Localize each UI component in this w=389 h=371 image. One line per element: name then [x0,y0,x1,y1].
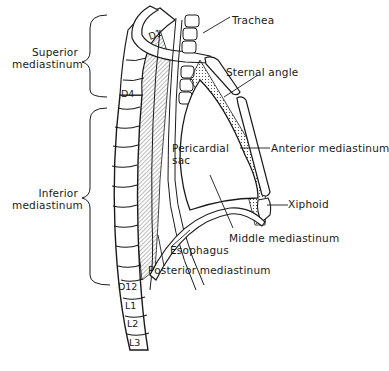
label-superior-mediastinum: Superior mediastinum [12,46,78,70]
label-sternal-angle: Sternal angle [226,66,298,78]
label-posterior-mediastinum: Posterior mediastinum [148,264,271,276]
label-inferior-mediastinum: Inferior mediastinum [12,187,78,211]
label-pericardial-sac: Pericardial sac [172,142,229,166]
label-line: Pericardial [172,142,229,154]
superior-bracket [82,15,107,97]
label-trachea: Trachea [232,14,274,26]
label-line: Inferior [12,187,78,199]
vertebra-label-l1: L1 [125,300,136,311]
vertebra-label-d12: D12 [118,281,137,292]
label-line: mediastinum [12,58,78,70]
label-line: sac [172,154,229,166]
vertebra-label-d4: D4 [121,88,134,99]
label-middle-mediastinum: Middle mediastinum [229,232,339,244]
label-anterior-mediastinum: Anterior mediastinum [271,142,389,154]
label-line: Superior [12,46,78,58]
label-xiphoid: Xiphoid [288,198,329,210]
label-line: mediastinum [12,199,78,211]
vertebra-label-l2: L2 [127,318,138,329]
vertebra-label-l3: L3 [129,337,140,348]
label-esophagus: Esophagus [170,244,229,256]
inferior-bracket [82,108,110,285]
